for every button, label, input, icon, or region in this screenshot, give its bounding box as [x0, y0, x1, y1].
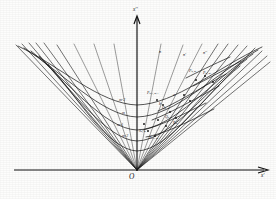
point-label-2-subscript: n', m' [205, 72, 211, 75]
ray-label-n-prime: n' [183, 53, 186, 57]
ray-label-b: b [159, 102, 161, 106]
point-label-7-subscript: n-1, m [151, 137, 158, 140]
point-label-6: Sn, m [139, 130, 146, 134]
point-label-4-subscript: n-1 [168, 116, 172, 119]
point-label-0-subscript: n-1, m-1 [149, 92, 158, 95]
ray-group-left [16, 43, 137, 170]
point-label-1: Pn, m [189, 70, 196, 74]
figure-drawing [0, 0, 276, 199]
point-label-3: Qn, m [162, 107, 170, 111]
curve-label-2: m-1 [117, 124, 123, 128]
figure-container: x'' x' O m-2 m m-1 m-2 n n' n'' a b Pn-1… [0, 0, 276, 199]
horizontal-axis-label: x' [261, 173, 264, 178]
point-label-5: Rm [173, 122, 178, 126]
curve-label-3: m-2 [122, 135, 128, 139]
point-label-6-subscript: n, m [141, 130, 146, 133]
point-label-3-subscript: n, m [165, 107, 170, 110]
point-label-2: Pn', m' [203, 72, 211, 76]
vertical-axis-label: x'' [133, 7, 138, 12]
origin-label: O [129, 173, 134, 180]
curve-label-1: m [122, 112, 125, 116]
ray-label-n: n [159, 50, 161, 54]
point-label-1-subscript: n, m [191, 70, 196, 73]
ray-group-right [137, 44, 270, 170]
ray-label-a: a [173, 93, 175, 97]
curve-label-0: m-2 [119, 99, 125, 103]
point-label-7: Tn-1, m [149, 137, 158, 141]
ray-label-n-double-prime: n'' [203, 51, 207, 55]
point-label-0: Pn-1, m-1 [147, 92, 159, 96]
point-label-4: Qn-1 [165, 116, 171, 120]
point-label-5-subscript: m [175, 122, 177, 125]
